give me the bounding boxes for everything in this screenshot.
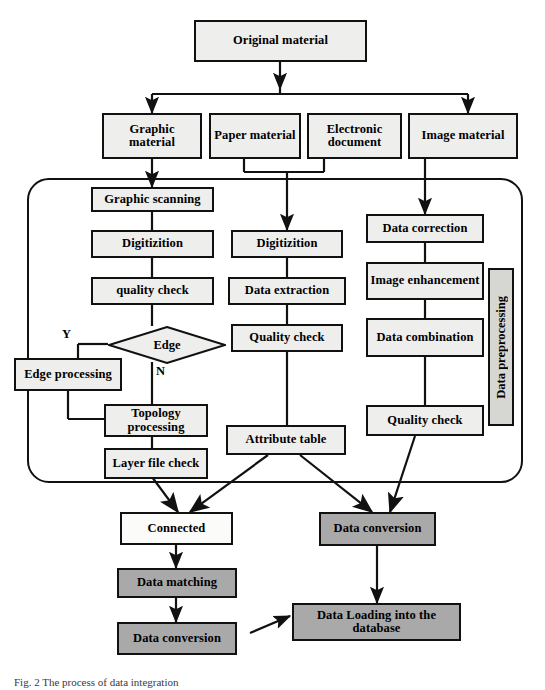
node-data-conversion-bottom[interactable]: Data conversion — [117, 622, 237, 655]
node-data-combination[interactable]: Data combination — [366, 318, 484, 357]
node-image-material[interactable]: Image material — [408, 113, 518, 159]
node-data-correction[interactable]: Data correction — [366, 214, 484, 243]
node-graphic-scanning[interactable]: Graphic scanning — [91, 187, 214, 212]
node-original-material[interactable]: Original material — [194, 20, 367, 62]
node-digitization-left[interactable]: Digitizition — [91, 230, 214, 258]
node-attribute-table[interactable]: Attribute table — [226, 425, 346, 455]
node-topology-processing[interactable]: Topology processing — [104, 404, 208, 437]
figure-caption: Fig. 2 The process of data integration — [14, 676, 434, 689]
label-data-preprocessing: Data preprocessing — [488, 268, 514, 426]
node-data-matching[interactable]: Data matching — [117, 568, 237, 598]
node-electronic-document[interactable]: Electronic document — [307, 113, 402, 159]
node-quality-check-right[interactable]: Quality check — [366, 405, 484, 436]
node-graphic-material[interactable]: Graphic material — [102, 113, 202, 159]
node-data-conversion-right[interactable]: Data conversion — [319, 512, 436, 546]
node-digitization-mid[interactable]: Digitizition — [231, 230, 343, 258]
node-data-extraction[interactable]: Data extraction — [228, 277, 346, 305]
node-edge-processing[interactable]: Edge processing — [14, 358, 122, 391]
label-data-preprocessing-text: Data preprocessing — [494, 296, 509, 399]
edge-label-no: N — [156, 364, 165, 379]
node-paper-material[interactable]: Paper material — [209, 113, 301, 159]
node-quality-check-left[interactable]: quality check — [91, 277, 214, 305]
node-quality-check-mid[interactable]: Quality check — [231, 324, 343, 352]
node-connected[interactable]: Connected — [120, 512, 233, 545]
node-layer-file-check[interactable]: Layer file check — [104, 448, 208, 479]
flowchart-canvas: Original material Graphic material Paper… — [0, 0, 545, 690]
edge-label-yes: Y — [62, 327, 71, 342]
node-image-enhancement[interactable]: Image enhancement — [366, 262, 484, 300]
node-edge-decision[interactable]: Edge — [108, 326, 226, 364]
edge-decision-label: Edge — [108, 326, 226, 364]
node-data-loading[interactable]: Data Loading into the database — [292, 603, 461, 641]
